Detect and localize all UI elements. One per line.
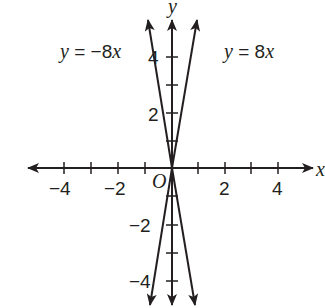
y-tick-label-neg4: −4 [129, 271, 151, 292]
x-tick-label-neg2: −2 [104, 178, 126, 199]
x-tick-label-neg4: −4 [49, 178, 71, 199]
origin-label: O [152, 170, 166, 192]
y-tick-label-4: 4 [148, 47, 159, 68]
equation-y-neg-8x: y = −8x [58, 40, 121, 63]
x-axis-label: x [315, 158, 325, 180]
x-tick-label-2: 2 [219, 178, 230, 199]
equation-y-8x: y = 8x [222, 40, 274, 63]
y-tick-label-2: 2 [148, 104, 159, 125]
y-tick-label-neg2: −2 [129, 215, 151, 236]
y-axis-label: y [166, 0, 177, 18]
x-tick-label-4: 4 [272, 178, 283, 199]
graph: y x O −4 −2 2 4 4 2 −2 −4 y = −8x y = 8x [0, 0, 325, 308]
